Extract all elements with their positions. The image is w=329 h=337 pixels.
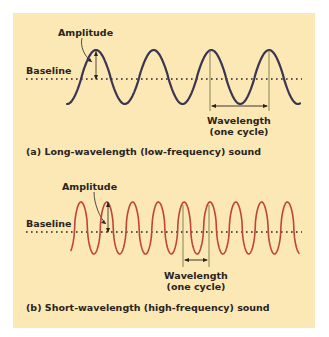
amplitude-label-a: Amplitude: [58, 27, 113, 38]
sound-wave-diagram: Amplitude Baseline Wavelength (one cycle…: [0, 0, 329, 337]
amplitude-label-b: Amplitude: [62, 181, 117, 192]
caption-b: (b) Short-wavelength (high-frequency) so…: [26, 302, 270, 313]
wavelength-label-b: Wavelength: [164, 270, 228, 281]
baseline-label-a: Baseline: [26, 65, 71, 76]
baseline-label-b: Baseline: [26, 218, 71, 229]
wavelength-sub-b: (one cycle): [167, 281, 226, 292]
wavelength-sub-a: (one cycle): [210, 126, 269, 137]
caption-a: (a) Long-wavelength (low-frequency) soun…: [26, 146, 261, 157]
wavelength-label-a: Wavelength: [207, 115, 271, 126]
